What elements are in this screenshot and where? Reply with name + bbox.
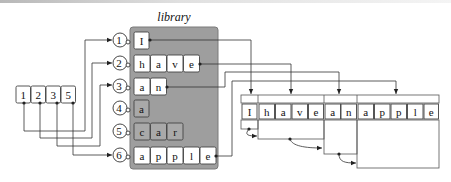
library-id: 3	[116, 80, 122, 92]
output-sequence: I h a v e a n a p p l e	[241, 95, 439, 168]
svg-text:p: p	[156, 150, 162, 162]
svg-text:a: a	[140, 150, 145, 162]
library-entry-6: a p p l e	[134, 147, 216, 164]
library-id: 1	[116, 34, 122, 46]
svg-text:c: c	[140, 126, 145, 138]
output-char: h	[264, 106, 270, 118]
svg-text:a: a	[156, 126, 161, 138]
library-id: 6	[116, 149, 122, 161]
index-value: 3	[51, 89, 57, 101]
library-title: library	[157, 10, 191, 24]
svg-text:r: r	[173, 126, 177, 138]
svg-text:p: p	[172, 150, 178, 162]
svg-text:a: a	[139, 103, 144, 115]
library-entry-3: a n	[134, 78, 167, 95]
index-array: 1 2 3 5	[16, 86, 76, 103]
library-ids: 1 2 3 4 5 6	[113, 33, 130, 162]
svg-text:e: e	[189, 58, 194, 70]
output-char: a	[281, 106, 286, 118]
svg-text:v: v	[172, 58, 178, 70]
svg-text:e: e	[206, 150, 211, 162]
index-value: 2	[36, 89, 42, 101]
library-entry-2: h a v e	[134, 55, 200, 72]
svg-text:a: a	[156, 58, 161, 70]
svg-text:a: a	[140, 81, 145, 93]
output-char: e	[314, 106, 319, 118]
svg-text:l: l	[190, 150, 193, 162]
output-char: l	[414, 106, 417, 118]
svg-text:h: h	[139, 58, 145, 70]
output-char: p	[380, 106, 386, 118]
library-entry-4: a	[134, 100, 149, 117]
library-entry-5: c a r	[134, 123, 183, 140]
index-value: 1	[21, 89, 27, 101]
library-id: 5	[116, 125, 122, 137]
library-id: 2	[116, 57, 122, 69]
svg-text:n: n	[156, 81, 162, 93]
index-value: 5	[66, 89, 72, 101]
output-char: n	[346, 106, 352, 118]
output-char: p	[396, 106, 402, 118]
output-char: a	[363, 106, 368, 118]
output-char: v	[297, 106, 303, 118]
library-diagram: library 1 2 3 5 1 2 3 4 5 6	[0, 0, 451, 182]
library-id: 4	[116, 102, 122, 114]
output-char: a	[330, 106, 335, 118]
svg-text:I: I	[140, 35, 144, 47]
output-char: e	[429, 106, 434, 118]
library-entry-1: I	[134, 32, 149, 49]
output-char: I	[248, 106, 252, 118]
